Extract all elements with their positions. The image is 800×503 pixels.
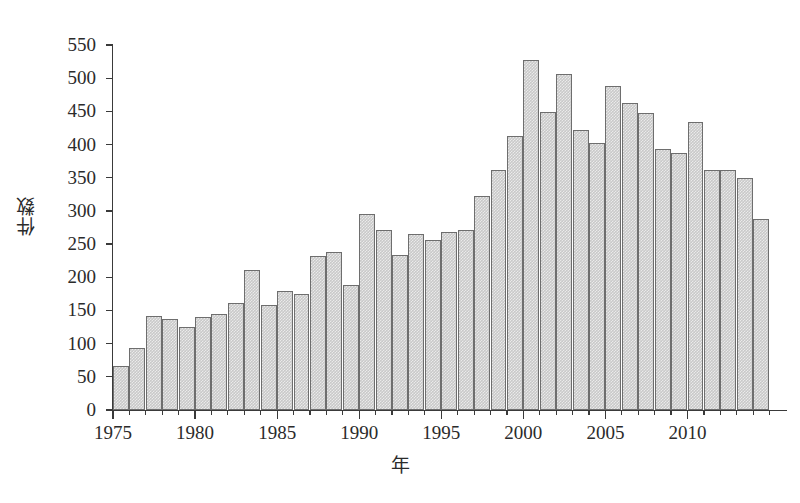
bar-2000 (523, 60, 539, 410)
bar-2005 (605, 86, 621, 410)
x-tick-2007 (638, 410, 639, 415)
x-tick-1989 (342, 410, 343, 415)
y-tick-350 (106, 177, 113, 178)
y-tick-150 (106, 310, 113, 311)
x-tick-1979 (178, 410, 179, 415)
bar-1995 (441, 232, 457, 410)
x-tick-1988 (326, 410, 327, 415)
bar-1997 (474, 196, 490, 410)
bar-1975 (113, 366, 129, 410)
bar-1989 (343, 285, 359, 410)
y-tick-label-0: 0 (36, 400, 96, 419)
x-tick-label-1985: 1985 (237, 422, 317, 444)
bar-1978 (162, 319, 178, 410)
x-tick-1977 (145, 410, 146, 415)
x-tick-1983 (244, 410, 245, 415)
y-tick-label-450: 450 (36, 101, 96, 120)
x-tick-2013 (736, 410, 737, 415)
x-tick-1990 (359, 410, 360, 419)
bar-2004 (589, 143, 605, 410)
x-tick-1978 (162, 410, 163, 415)
y-tick-50 (106, 376, 113, 377)
x-tick-2006 (621, 410, 622, 415)
bar-1992 (392, 255, 408, 410)
y-tick-label-50: 50 (36, 367, 96, 386)
y-tick-label-250: 250 (36, 234, 96, 253)
bar-1976 (129, 348, 145, 410)
y-tick-label-100: 100 (36, 334, 96, 353)
x-tick-2002 (556, 410, 557, 415)
x-tick-1995 (441, 410, 442, 419)
x-tick-2012 (720, 410, 721, 415)
bar-1993 (408, 234, 424, 410)
x-tick-2004 (588, 410, 589, 415)
x-tick-label-2005: 2005 (565, 422, 645, 444)
x-tick-2005 (605, 410, 606, 419)
bar-1998 (491, 170, 507, 410)
x-tick-1976 (129, 410, 130, 415)
x-tick-label-2000: 2000 (483, 422, 563, 444)
x-tick-1992 (391, 410, 392, 415)
bar-1991 (376, 230, 392, 411)
bar-1982 (228, 303, 244, 410)
x-tick-1998 (490, 410, 491, 415)
bar-2009 (671, 153, 687, 410)
bar-2002 (556, 74, 572, 410)
bar-1977 (146, 316, 162, 410)
x-tick-label-1975: 1975 (73, 422, 153, 444)
bar-1981 (211, 314, 227, 410)
bar-1986 (294, 294, 310, 410)
bar-1979 (179, 327, 195, 410)
x-tick-2001 (539, 410, 540, 415)
x-tick-1980 (194, 410, 195, 419)
x-tick-1999 (506, 410, 507, 415)
x-tick-1985 (277, 410, 278, 419)
x-tick-1997 (474, 410, 475, 415)
bar-2001 (540, 112, 556, 410)
x-tick-2015 (769, 410, 770, 415)
x-tick-label-2010: 2010 (648, 422, 728, 444)
x-tick-1982 (227, 410, 228, 415)
y-tick-label-200: 200 (36, 267, 96, 286)
bar-1984 (261, 305, 277, 410)
y-tick-100 (106, 343, 113, 344)
bar-2010 (688, 122, 704, 410)
bar-2003 (573, 130, 589, 410)
bar-1999 (507, 136, 523, 410)
x-tick-1994 (424, 410, 425, 415)
y-tick-500 (106, 78, 113, 79)
y-axis-title: 件数 (16, 196, 50, 236)
x-tick-1975 (112, 410, 113, 419)
bar-2014 (753, 219, 769, 410)
y-tick-label-350: 350 (36, 168, 96, 187)
y-tick-250 (106, 243, 113, 244)
x-tick-2011 (703, 410, 704, 415)
x-tick-2008 (654, 410, 655, 415)
x-tick-1996 (457, 410, 458, 415)
x-tick-2000 (523, 410, 524, 419)
y-tick-200 (106, 277, 113, 278)
bar-1983 (244, 270, 260, 410)
y-tick-label-550: 550 (36, 35, 96, 54)
y-tick-label-400: 400 (36, 135, 96, 154)
bar-2008 (655, 149, 671, 410)
bar-1987 (310, 256, 326, 410)
x-tick-1986 (293, 410, 294, 415)
x-tick-1987 (309, 410, 310, 415)
x-tick-label-1980: 1980 (155, 422, 235, 444)
bar-2012 (720, 170, 736, 410)
bar-2006 (622, 103, 638, 410)
x-tick-2010 (687, 410, 688, 419)
y-tick-label-500: 500 (36, 68, 96, 87)
y-tick-label-150: 150 (36, 300, 96, 319)
bar-1985 (277, 291, 293, 410)
bar-2011 (704, 170, 720, 410)
bar-2007 (638, 113, 654, 410)
x-tick-1993 (408, 410, 409, 415)
bar-1988 (326, 252, 342, 410)
y-tick-400 (106, 144, 113, 145)
x-tick-1981 (211, 410, 212, 415)
x-tick-2003 (572, 410, 573, 415)
y-tick-550 (106, 44, 113, 45)
bar-1990 (359, 214, 375, 410)
